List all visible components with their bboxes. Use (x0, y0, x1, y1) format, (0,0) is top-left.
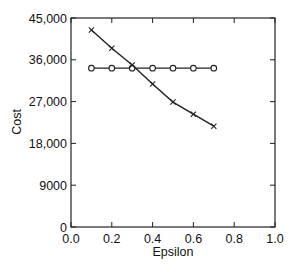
y-tick-label: 36,000 (29, 53, 67, 67)
cost-vs-epsilon-chart: 0900018,00027,00036,00045,000 0.00.20.40… (0, 0, 297, 272)
x-tick-label: 0.6 (185, 232, 202, 246)
y-tick-label: 45,000 (29, 12, 67, 26)
data-series (89, 27, 217, 128)
x-tick-label: 0.8 (226, 232, 243, 246)
circle-marker-icon (150, 65, 156, 71)
cross-marker-icon (89, 27, 94, 32)
y-tick-label: 9000 (39, 179, 67, 193)
cross-marker-icon (109, 46, 114, 51)
x-axis: 0.00.20.40.60.81.0 (62, 18, 283, 246)
x-axis-title: Epsilon (153, 245, 194, 259)
circle-series (89, 65, 217, 71)
circle-marker-icon (109, 65, 115, 71)
x-tick-label: 0.4 (144, 232, 161, 246)
plot-frame (71, 18, 275, 227)
x-tick-label: 0.0 (62, 232, 79, 246)
y-tick-label: 27,000 (29, 95, 67, 109)
x-tick-label: 0.2 (103, 232, 120, 246)
circle-marker-icon (211, 65, 217, 71)
cross-marker-icon (191, 112, 196, 117)
y-axis-title: Cost (10, 109, 24, 135)
cross-marker-icon (170, 99, 175, 104)
cross-series (89, 27, 217, 128)
cross-marker-icon (211, 124, 216, 129)
cross-marker-icon (150, 81, 155, 86)
circle-marker-icon (170, 65, 176, 71)
circle-marker-icon (89, 65, 95, 71)
circle-marker-icon (191, 65, 197, 71)
x-tick-label: 1.0 (266, 232, 283, 246)
y-tick-label: 18,000 (29, 137, 67, 151)
y-axis: 0900018,00027,00036,00045,000 (29, 12, 275, 235)
